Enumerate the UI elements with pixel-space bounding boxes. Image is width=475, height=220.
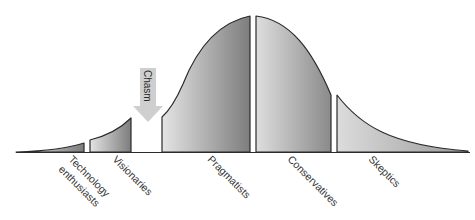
- segment-skeptics: [337, 95, 468, 152]
- label-skeptics: Skeptics: [367, 153, 404, 190]
- segment-pragmatists: [162, 16, 250, 152]
- segment-conservatives: [256, 16, 331, 152]
- label-pragmatists: Pragmatists: [206, 153, 254, 201]
- chasm-label: Chasm: [142, 70, 153, 102]
- label-visionaries: Visionaries: [111, 153, 156, 198]
- label-conservatives: Conservatives: [286, 153, 342, 209]
- chasm-arrow: Chasm: [133, 68, 163, 122]
- segment-technology-enthusiasts: [16, 143, 84, 152]
- segment-visionaries: [90, 118, 131, 152]
- adoption-curve-diagram: Chasm Technology enthusiasts Visionaries…: [0, 0, 475, 220]
